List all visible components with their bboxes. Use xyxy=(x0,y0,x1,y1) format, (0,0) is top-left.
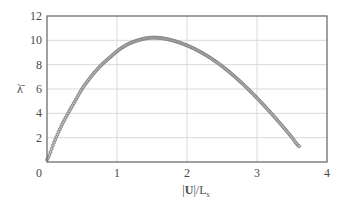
x-axis-label: |U|/Ls xyxy=(182,183,209,199)
x-axis-label-subscript: s xyxy=(207,190,210,199)
x-tick-label: 3 xyxy=(254,166,260,180)
x-tick-label: 0 xyxy=(36,166,42,180)
y-tick-label: 10 xyxy=(30,33,42,47)
y-axis-label: λ̄ xyxy=(17,82,25,96)
chart: 24681012 01234 λ̄ |U|/Ls xyxy=(0,0,344,210)
data-point xyxy=(48,154,51,157)
x-axis-label-rest: |/L xyxy=(193,183,206,197)
x-axis-label-bold: U xyxy=(185,183,194,197)
grid-lines xyxy=(47,16,327,162)
x-tick-label: 4 xyxy=(324,166,330,180)
y-tick-label: 12 xyxy=(30,9,42,23)
y-axis-ticks: 24681012 xyxy=(30,9,42,145)
data-point xyxy=(298,145,301,148)
y-tick-label: 8 xyxy=(36,58,42,72)
data-point xyxy=(51,144,54,147)
data-series xyxy=(46,36,301,161)
x-tick-label: 2 xyxy=(184,166,190,180)
data-point xyxy=(50,147,53,150)
y-tick-label: 4 xyxy=(36,106,42,120)
data-point xyxy=(49,151,52,154)
x-axis-ticks: 01234 xyxy=(36,166,330,180)
y-tick-label: 6 xyxy=(36,82,42,96)
y-tick-label: 2 xyxy=(36,131,42,145)
x-tick-label: 1 xyxy=(114,166,120,180)
